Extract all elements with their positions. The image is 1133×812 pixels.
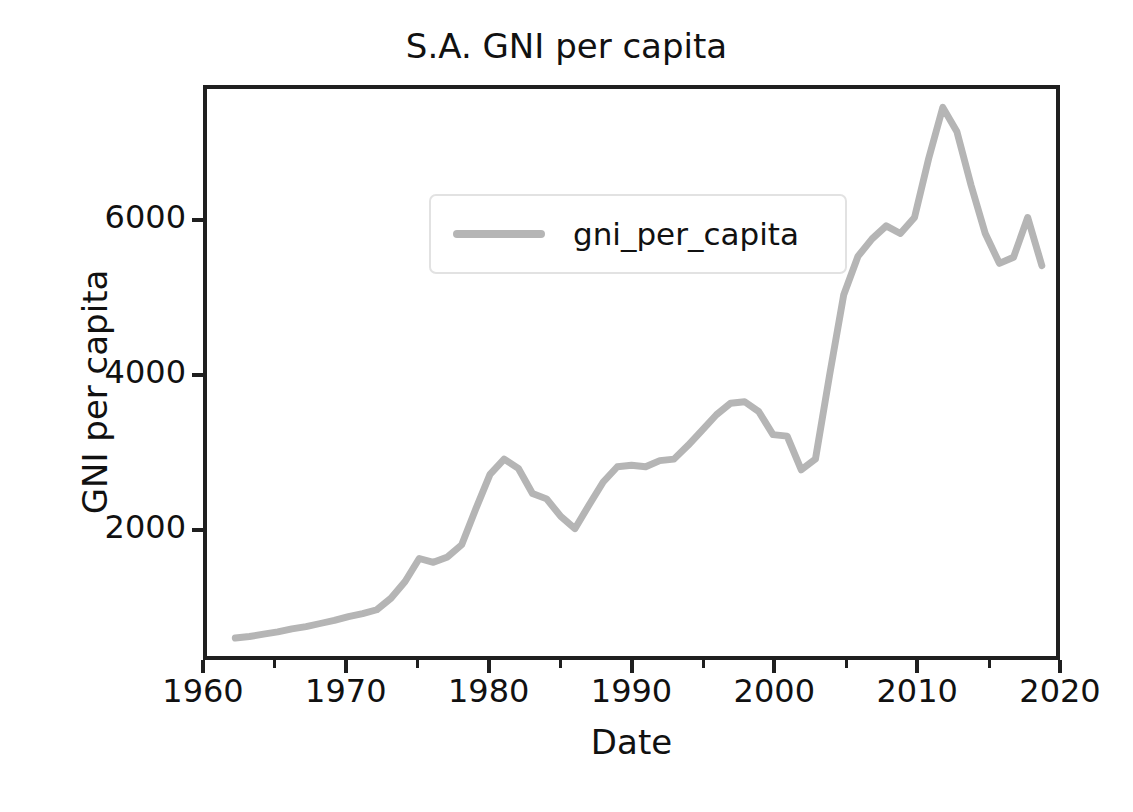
chart-title: S.A. GNI per capita: [0, 26, 1133, 66]
x-tick-mark: [772, 660, 776, 673]
gni-per-capita-line: [235, 107, 1042, 638]
x-tick-mark: [630, 660, 634, 673]
legend-swatch-gni-per-capita: [453, 230, 545, 238]
x-minor-tick-mark: [845, 660, 848, 668]
y-tick-label: 6000: [0, 198, 186, 236]
x-tick-mark: [1058, 660, 1062, 673]
plot-area: gni_per_capita: [203, 85, 1060, 660]
legend-label-gni-per-capita: gni_per_capita: [573, 216, 799, 252]
x-minor-tick-mark: [702, 660, 705, 668]
y-axis-label: GNI per capita: [75, 105, 115, 680]
x-tick-label: 2000: [704, 672, 844, 710]
x-tick-mark: [201, 660, 205, 673]
x-tick-mark: [344, 660, 348, 673]
y-tick-label: 4000: [0, 353, 186, 391]
data-line-svg: [207, 89, 1056, 656]
x-tick-mark: [487, 660, 491, 673]
x-axis-label: Date: [203, 722, 1060, 762]
x-minor-tick-mark: [559, 660, 562, 668]
x-tick-label: 1960: [133, 672, 273, 710]
x-minor-tick-mark: [988, 660, 991, 668]
x-tick-label: 1970: [276, 672, 416, 710]
y-tick-label: 2000: [0, 508, 186, 546]
x-minor-tick-mark: [273, 660, 276, 668]
chart-figure: S.A. GNI per capita GNI per capita Date …: [0, 0, 1133, 812]
x-tick-mark: [915, 660, 919, 673]
x-tick-label: 2020: [990, 672, 1130, 710]
x-tick-label: 2010: [847, 672, 987, 710]
x-minor-tick-mark: [416, 660, 419, 668]
x-tick-label: 1990: [562, 672, 702, 710]
x-tick-label: 1980: [419, 672, 559, 710]
legend[interactable]: gni_per_capita: [429, 194, 847, 274]
